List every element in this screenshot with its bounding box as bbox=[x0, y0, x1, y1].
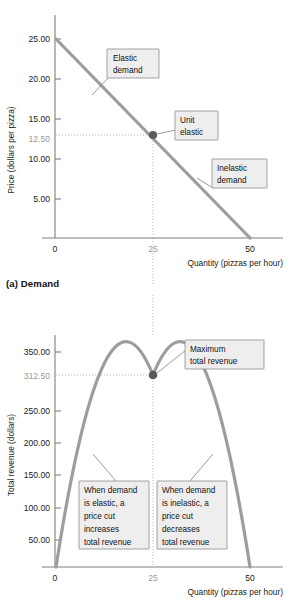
elastic-demand-line-1: demand bbox=[113, 66, 143, 75]
tr-y-axis-title: Total revenue (dollars) bbox=[6, 414, 16, 496]
tr-xtick-label-0: 0 bbox=[53, 573, 58, 583]
inelastic-price-cut-leader bbox=[190, 454, 213, 481]
panel-a-caption: (a) Demand bbox=[6, 278, 59, 289]
demand-ytick-label-5: 5.00 bbox=[33, 194, 50, 204]
demand-ytick-label-0: 25.00 bbox=[28, 34, 50, 44]
demand-xtick-label-2: 50 bbox=[245, 244, 255, 254]
elasticity-figure: 25.00 20.00 15.00 12.50 10.00 5.00 Price… bbox=[0, 0, 291, 607]
demand-ytick-label-3: 12.50 bbox=[28, 134, 50, 144]
demand-ytick-label-2: 15.00 bbox=[28, 114, 50, 124]
tr-ytick-label-2: 250.00 bbox=[24, 406, 51, 416]
inelastic-price-cut-line-2: price cut bbox=[162, 512, 194, 521]
demand-chart: 25.00 20.00 15.00 12.50 10.00 5.00 Price… bbox=[0, 0, 291, 285]
inelastic-price-cut-line-1: is inelastic, a bbox=[162, 499, 209, 508]
tr-x-axis-title: Quantity (pizzas per hour) bbox=[188, 587, 284, 597]
tr-ytick-label-4: 150.00 bbox=[24, 470, 51, 480]
inelastic-price-cut-line-3: decreases bbox=[162, 525, 200, 534]
tr-xtick-label-2: 50 bbox=[245, 573, 255, 583]
tr-ytick-label-0: 350.00 bbox=[24, 347, 51, 357]
tr-ytick-label-6: 50.00 bbox=[28, 535, 50, 545]
demand-xtick-label-1: 25 bbox=[148, 244, 158, 254]
elastic-price-cut-line-3: increases bbox=[84, 525, 119, 534]
elastic-price-cut-line-4: total revenue bbox=[84, 538, 132, 547]
tr-ytick-label-1: 312.50 bbox=[24, 371, 51, 381]
tr-xtick-label-1: 25 bbox=[148, 573, 158, 583]
total-revenue-chart: 350.00 312.50 250.00 200.00 150.00 100.0… bbox=[0, 295, 291, 607]
inelastic-demand-line-0: Inelastic bbox=[217, 164, 247, 173]
maximum-total-revenue-point bbox=[149, 371, 158, 380]
elastic-demand-line-0: Elastic bbox=[113, 54, 137, 63]
elastic-price-cut-leader bbox=[93, 454, 116, 481]
elastic-price-cut-line-2: price cut bbox=[84, 512, 116, 521]
inelastic-price-cut-line-4: total revenue bbox=[162, 538, 210, 547]
unit-elastic-line-1: elastic bbox=[180, 128, 203, 137]
tr-ytick-label-5: 100.00 bbox=[24, 503, 51, 513]
demand-ytick-label-1: 20.00 bbox=[28, 74, 50, 84]
elastic-price-cut-line-0: When demand bbox=[84, 486, 138, 495]
demand-xtick-label-0: 0 bbox=[53, 244, 58, 254]
inelastic-demand-line-1: demand bbox=[217, 176, 247, 185]
tr-ytick-label-3: 200.00 bbox=[24, 438, 51, 448]
inelastic-price-cut-line-0: When demand bbox=[162, 486, 216, 495]
demand-ytick-label-4: 10.00 bbox=[28, 154, 50, 164]
unit-elastic-leader bbox=[157, 130, 176, 134]
demand-y-axis-title: Price (dollars per pizza) bbox=[6, 106, 16, 193]
unit-elastic-line-0: Unit bbox=[180, 116, 195, 125]
maximum-total-revenue-line-0: Maximum bbox=[190, 345, 226, 354]
maximum-total-revenue-leader bbox=[157, 350, 186, 373]
elastic-price-cut-line-1: is elastic, a bbox=[84, 499, 125, 508]
maximum-total-revenue-line-1: total revenue bbox=[190, 357, 238, 366]
unit-elastic-point bbox=[149, 131, 157, 139]
demand-x-axis-title: Quantity (pizzas per hour) bbox=[188, 258, 284, 268]
